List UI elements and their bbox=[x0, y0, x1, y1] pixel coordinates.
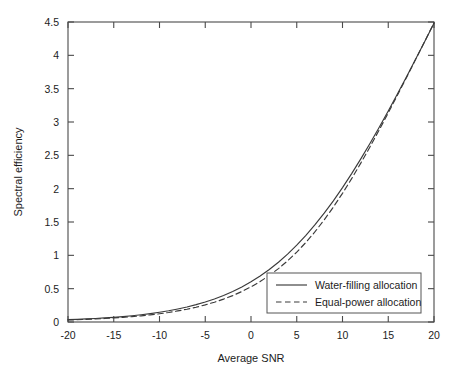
y-tick-label: 3.5 bbox=[44, 83, 59, 95]
x-tick-label: -5 bbox=[201, 329, 210, 341]
x-tick-label: 20 bbox=[428, 329, 440, 341]
y-tick-label: 2.5 bbox=[44, 149, 59, 161]
x-axis-title: Average SNR bbox=[217, 352, 284, 364]
x-tick-label: 5 bbox=[294, 329, 300, 341]
x-tick-label: 15 bbox=[382, 329, 394, 341]
chart-legend: Water-filling allocation Equal-power all… bbox=[267, 273, 421, 313]
x-tick-label: 0 bbox=[248, 329, 254, 341]
y-tick-label: 1.5 bbox=[44, 216, 59, 228]
x-tick-label: 10 bbox=[337, 329, 349, 341]
y-tick-label: 0 bbox=[53, 316, 59, 328]
legend-label-equal-power: Equal-power allocation bbox=[315, 296, 421, 308]
y-tick-label: 4 bbox=[53, 49, 59, 61]
y-tick-label: 3 bbox=[53, 116, 59, 128]
y-axis-title: Spectral efficiency bbox=[12, 127, 24, 217]
x-tick-label: -15 bbox=[106, 329, 121, 341]
x-tick-label: -20 bbox=[60, 329, 75, 341]
chart-background bbox=[0, 0, 458, 384]
y-tick-label: 4.5 bbox=[44, 16, 59, 28]
y-tick-label: 0.5 bbox=[44, 283, 59, 295]
figure-container: 00.511.522.533.544.5 -20-15-10-505101520… bbox=[0, 0, 458, 384]
y-tick-label: 2 bbox=[53, 183, 59, 195]
y-tick-label: 1 bbox=[53, 249, 59, 261]
legend-label-water-filling: Water-filling allocation bbox=[315, 279, 417, 291]
spectral-efficiency-chart: 00.511.522.533.544.5 -20-15-10-505101520… bbox=[0, 0, 458, 384]
x-tick-label: -10 bbox=[152, 329, 167, 341]
